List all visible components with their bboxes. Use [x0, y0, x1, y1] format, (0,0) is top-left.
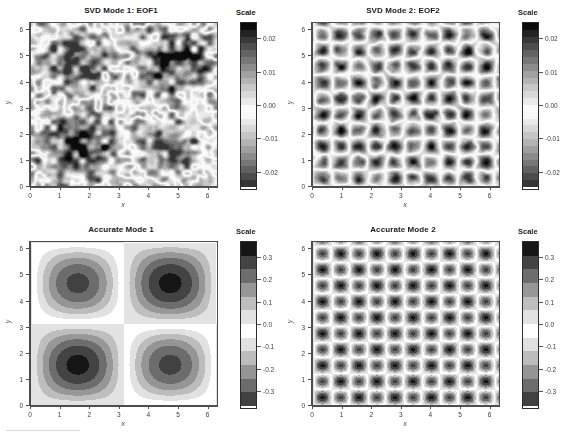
- x-tick: [30, 187, 31, 190]
- y-tick: [26, 353, 29, 354]
- x-tick-label: 3: [399, 411, 403, 418]
- colorbar-tick-label: 0.3: [263, 254, 272, 261]
- y-tick: [26, 82, 29, 83]
- colorbar-segment: [523, 125, 538, 132]
- y-tick-label: 5: [19, 271, 23, 278]
- x-axis-line: [30, 186, 218, 187]
- colorbar-segment: [241, 23, 256, 30]
- colorbar-tick-label: -0.3: [545, 387, 556, 394]
- x-tick-label: 2: [87, 192, 91, 199]
- x-tick-label: 0: [310, 192, 314, 199]
- colorbar-segment: [241, 57, 256, 64]
- x-axis-line: [312, 186, 500, 187]
- x-tick-label: 5: [176, 192, 180, 199]
- colorbar-tick: [257, 38, 261, 39]
- bottom-edge-artifact: [6, 430, 80, 431]
- colorbar-segment: [523, 146, 538, 153]
- colorbar-segment: [523, 310, 538, 324]
- contour-field: [313, 242, 499, 406]
- y-tick-label: 2: [301, 349, 305, 356]
- x-tick: [460, 406, 461, 409]
- x-tick-label: 2: [369, 192, 373, 199]
- colorbar-tick-label: 0.0: [263, 321, 272, 328]
- colorbar-segment: [523, 78, 538, 85]
- colorbar-segment: [523, 71, 538, 78]
- y-tick-label: 3: [301, 323, 305, 330]
- x-tick-label: 6: [206, 192, 210, 199]
- colorbar-tick: [539, 391, 543, 392]
- colorbar-segment: [523, 64, 538, 71]
- colorbar-tick-label: -0.1: [545, 343, 556, 350]
- colorbar-segment: [523, 139, 538, 146]
- colorbar-gradient: [240, 241, 257, 409]
- plot-area: [30, 241, 218, 407]
- y-tick-label: 1: [19, 375, 23, 382]
- x-tick-label: 0: [310, 411, 314, 418]
- panel-accurate-mode-1: Accurate Mode 1 y x 01234560123456 Scale…: [0, 219, 282, 438]
- colorbar-segment: [523, 338, 538, 352]
- y-tick: [308, 353, 311, 354]
- colorbar-segment: [241, 91, 256, 98]
- y-tick: [308, 274, 311, 275]
- y-tick: [26, 405, 29, 406]
- colorbar-segment: [523, 105, 538, 112]
- y-tick-label: 2: [19, 349, 23, 356]
- panel-title: SVD Mode 2: EOF2: [282, 6, 524, 15]
- y-tick-label: 4: [19, 297, 23, 304]
- colorbar-title: Scale: [518, 8, 538, 17]
- colorbar: 0.30.20.10.0-0.1-0.2-0.3: [522, 241, 562, 407]
- x-axis-line: [30, 405, 218, 406]
- colorbar-tick: [539, 72, 543, 73]
- colorbar-tick-label: 0.2: [263, 276, 272, 283]
- y-axis-label: y: [4, 101, 11, 104]
- colorbar-segment: [241, 84, 256, 91]
- x-tick: [401, 406, 402, 409]
- colorbar-segment: [523, 30, 538, 37]
- y-tick: [308, 82, 311, 83]
- colorbar-tick-label: 0.1: [545, 298, 554, 305]
- colorbar-segment: [241, 139, 256, 146]
- x-tick: [208, 406, 209, 409]
- x-tick-label: 6: [488, 192, 492, 199]
- contour-field: [313, 23, 499, 187]
- x-axis-label: x: [312, 420, 498, 427]
- y-tick-label: 1: [301, 156, 305, 163]
- colorbar-segment: [241, 105, 256, 112]
- colorbar-tick: [257, 279, 261, 280]
- x-tick-label: 4: [147, 192, 151, 199]
- y-tick-label: 4: [19, 78, 23, 85]
- x-tick-label: 1: [340, 192, 344, 199]
- colorbar-tick-label: 0.01: [545, 68, 558, 75]
- figure-canvas: SVD Mode 1: EOF1 y x 01234560123456 Scal…: [0, 0, 564, 438]
- x-tick: [60, 406, 61, 409]
- colorbar-segment: [523, 37, 538, 44]
- colorbar-segment: [241, 351, 256, 365]
- y-tick-label: 3: [19, 323, 23, 330]
- colorbar-tick-label: -0.3: [263, 387, 274, 394]
- x-tick: [119, 406, 120, 409]
- colorbar-segment: [523, 57, 538, 64]
- colorbar-tick: [257, 302, 261, 303]
- x-tick-label: 6: [206, 411, 210, 418]
- colorbar: 0.020.010.00-0.01-0.02: [240, 22, 280, 188]
- colorbar-segment: [523, 351, 538, 365]
- colorbar-segment: [523, 297, 538, 311]
- colorbar-segment: [241, 153, 256, 160]
- y-tick-label: 2: [19, 130, 23, 137]
- x-tick: [312, 187, 313, 190]
- x-tick-label: 6: [488, 411, 492, 418]
- x-tick: [430, 187, 431, 190]
- colorbar-segment: [241, 146, 256, 153]
- plot-area: [312, 241, 500, 407]
- y-tick-label: 6: [19, 26, 23, 33]
- y-tick-label: 5: [301, 52, 305, 59]
- colorbar-segment: [523, 50, 538, 57]
- colorbar: 0.30.20.10.0-0.1-0.2-0.3: [240, 241, 280, 407]
- colorbar-segment: [241, 365, 256, 379]
- colorbar-tick: [257, 324, 261, 325]
- colorbar-segment: [241, 64, 256, 71]
- y-tick: [26, 29, 29, 30]
- colorbar-tick: [257, 105, 261, 106]
- panel-title: SVD Mode 1: EOF1: [0, 6, 242, 15]
- y-tick-label: 5: [301, 271, 305, 278]
